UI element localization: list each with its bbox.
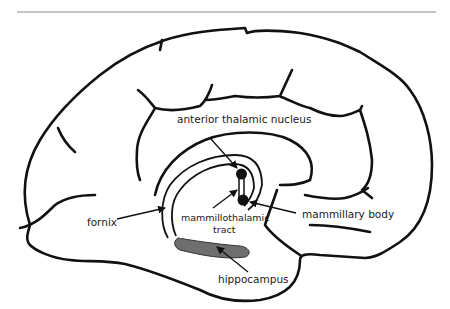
- arrow-fornix: [117, 208, 165, 219]
- label-mammillary-body: mammillary body: [302, 208, 394, 220]
- label-anterior-thalamic-nucleus: anterior thalamic nucleus: [177, 113, 311, 125]
- brain-diagram: anterior thalamic nucleus mammillary bod…: [0, 0, 450, 309]
- hippocampus-shape: [175, 238, 249, 258]
- arrow-tract: [213, 190, 237, 208]
- anterior-thalamic-nucleus-dot: [236, 169, 247, 180]
- sulcus-left-upper: [58, 128, 75, 152]
- sulcus-right-lower: [310, 225, 370, 232]
- sulcus-cingulate-top: [155, 70, 362, 116]
- label-mammillothalamic-line1: mammillothalamic: [181, 212, 269, 223]
- label-hippocampus: hippocampus: [218, 273, 289, 285]
- sulcus-right-middle: [305, 188, 368, 199]
- mammillary-body-dot: [238, 195, 249, 206]
- sulcus-right-descending: [360, 110, 372, 198]
- arrow-anterior-thalamic: [210, 138, 237, 168]
- sulcus-left-lower: [20, 195, 95, 228]
- label-mammillothalamic-line2: tract: [213, 224, 236, 235]
- sulcus-cingulate-left: [137, 90, 155, 180]
- label-fornix: fornix: [87, 216, 117, 228]
- sulcus-brainstem: [265, 190, 300, 255]
